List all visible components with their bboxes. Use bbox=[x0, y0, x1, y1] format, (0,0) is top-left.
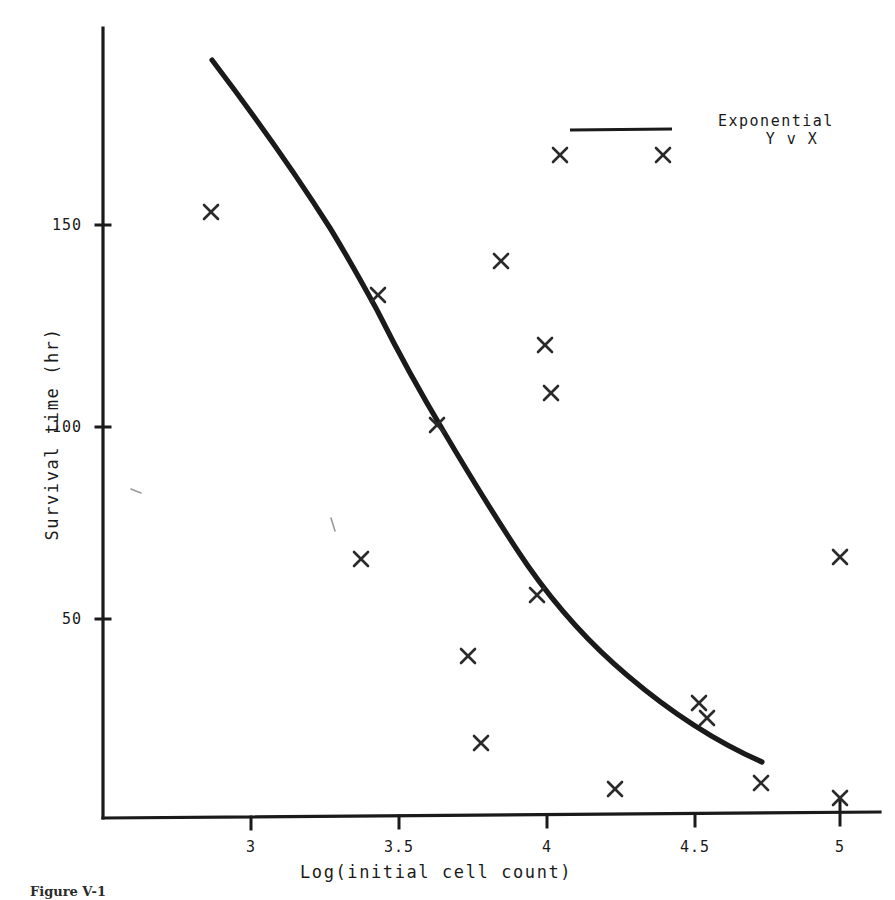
x-tick-label-4: 4 bbox=[517, 838, 577, 856]
legend-line-sample bbox=[570, 129, 672, 130]
data-point bbox=[700, 711, 714, 725]
x-tick-label-3: 3 bbox=[221, 838, 281, 856]
data-point bbox=[833, 550, 847, 564]
data-point bbox=[530, 588, 544, 602]
legend-entry-y-v-x: Y v X bbox=[718, 130, 888, 148]
data-point bbox=[754, 776, 768, 790]
x-tick-label-5: 5 bbox=[810, 838, 870, 856]
data-point bbox=[461, 649, 475, 663]
scatter-markers bbox=[204, 148, 847, 805]
y-tick-label-100: 100 bbox=[28, 418, 82, 436]
data-point bbox=[553, 148, 567, 162]
figure-container: Survival time (hr) Log(initial cell coun… bbox=[0, 0, 895, 900]
exponential-fit-curve bbox=[212, 60, 762, 762]
data-point bbox=[608, 782, 622, 796]
data-point bbox=[538, 338, 552, 352]
data-point bbox=[204, 205, 218, 219]
chart-legend: Exponential Y v X bbox=[718, 112, 888, 148]
data-point bbox=[692, 696, 706, 710]
data-point bbox=[371, 288, 385, 302]
scan-artifacts bbox=[131, 489, 335, 531]
x-tick-label-3-5: 3.5 bbox=[369, 838, 429, 856]
data-point bbox=[494, 254, 508, 268]
x-axis-title: Log(initial cell count) bbox=[300, 862, 572, 882]
data-point bbox=[354, 552, 368, 566]
legend-entry-exponential: Exponential bbox=[718, 112, 888, 130]
x-tick-label-4-5: 4.5 bbox=[665, 838, 725, 856]
data-point bbox=[474, 736, 488, 750]
y-tick-label-50: 50 bbox=[28, 610, 82, 628]
figure-caption: Figure V-1 bbox=[30, 884, 106, 900]
data-point bbox=[544, 386, 558, 400]
data-point bbox=[656, 148, 670, 162]
y-tick-label-150: 150 bbox=[28, 216, 82, 234]
